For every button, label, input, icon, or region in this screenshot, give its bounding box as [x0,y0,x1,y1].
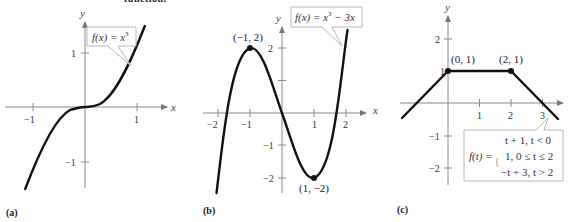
panel-label-c: (c) [397,204,408,216]
point-2-1 [508,68,514,74]
case-1: t + 1, t < 0 [505,134,552,146]
point-0-1 [445,68,451,74]
point-label-max: (−1, 2) [233,31,263,44]
y-axis-label: y [275,12,281,24]
x-tick-label: −2 [207,119,218,130]
y-tick-label: 2 [435,34,440,45]
x-tick-label: −1 [241,119,252,130]
point-label-min: (1, −2) [299,182,329,195]
function-name: f(t) = [469,150,493,163]
x-tick-label: 3 [540,110,545,121]
x-tick-label: 1 [477,110,482,121]
x-tick-label: 1 [134,114,139,125]
y-tick-label: 2 [268,43,273,54]
x-tick-label: 2 [343,119,348,130]
x-axis-label: x [170,101,176,113]
point-label-a: (0, 1) [451,53,475,66]
function-label: f(x) = x3 − 3x [295,10,355,24]
panel-label-a: (a) [6,207,18,219]
brace: { [496,155,499,167]
panel-a: x y −1 1 1 −1 f(x) = x3 (a) [5,7,176,219]
y-tick-label: −2 [429,163,440,174]
local-min-point [311,175,317,181]
y-tick-label: −1 [263,140,274,151]
x-tick-label: 1 [312,119,317,130]
x-tick-label: 2 [508,110,513,121]
y-tick-label: −2 [263,173,274,184]
figure: x y −1 1 1 −1 f(x) = x3 (a) y −2 −1 1 2 [0,0,569,222]
x-axis-label-stray: x [372,104,378,116]
local-max-point [247,45,253,51]
case-3: −t + 3, t > 2 [501,166,553,178]
y-tick-label: −1 [429,131,440,142]
y-tick-label: 1 [71,48,76,59]
panel-label-b: (b) [203,205,215,217]
y-tick-label: −1 [65,157,76,168]
y-axis-label: y [79,7,85,19]
y-axis-label: y [444,1,450,13]
function-label: f(x) = x3 [92,30,129,44]
panel-b: y −2 −1 1 2 2 −1 −2 (−1, 2) (1, −2) f(x)… [203,7,366,217]
point-label-b: (2, 1) [499,53,523,66]
panel-c: x y 1 2 3 2 1 −1 −2 (0, 1) (2, 1) f(t) =… [372,1,563,216]
case-2: 1, 0 ≤ t ≤ 2 [505,150,553,162]
x-tick-label: −1 [24,114,35,125]
